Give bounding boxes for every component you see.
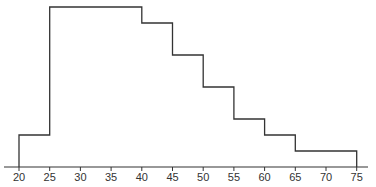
x-tick-label: 30: [74, 171, 86, 183]
x-tick-label: 45: [166, 171, 178, 183]
x-axis-ticks: [19, 167, 357, 171]
x-tick-label: 60: [258, 171, 270, 183]
x-axis-tick-labels: 202530354045505560657075: [13, 171, 363, 183]
histogram-outline: [19, 7, 357, 167]
x-tick-label: 40: [136, 171, 148, 183]
x-tick-label: 20: [13, 171, 25, 183]
x-tick-label: 75: [351, 171, 363, 183]
x-tick-label: 55: [228, 171, 240, 183]
x-tick-label: 65: [289, 171, 301, 183]
x-tick-label: 70: [320, 171, 332, 183]
x-tick-label: 35: [105, 171, 117, 183]
x-tick-label: 25: [44, 171, 56, 183]
step-histogram-chart: 202530354045505560657075: [0, 0, 376, 187]
x-tick-label: 50: [197, 171, 209, 183]
